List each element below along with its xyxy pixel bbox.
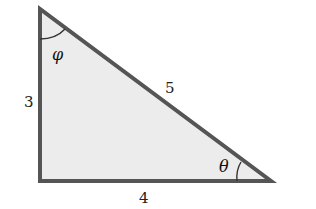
side-vertical-label: 3: [24, 93, 34, 111]
side-horizontal-label: 4: [139, 189, 149, 207]
phi-label: φ: [52, 45, 64, 64]
theta-label: θ: [219, 157, 229, 176]
right-triangle-diagram: φ θ 3 5 4: [0, 0, 316, 209]
triangle-shape: [40, 9, 271, 181]
side-hypotenuse-label: 5: [165, 79, 175, 97]
